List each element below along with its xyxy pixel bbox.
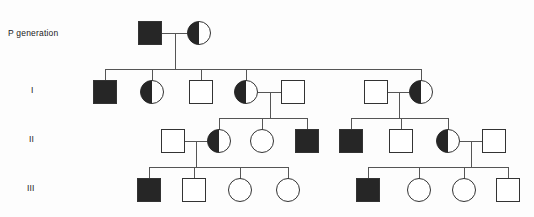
individual-P-1-square-filled[interactable] bbox=[139, 22, 162, 45]
circle-symbol-female bbox=[277, 179, 300, 202]
individual-III-6-circle-empty[interactable] bbox=[408, 179, 431, 202]
half-fill-left bbox=[437, 130, 448, 153]
individual-III-4-circle-empty[interactable] bbox=[277, 179, 300, 202]
square-symbol-male bbox=[162, 130, 185, 153]
individual-III-3-circle-empty[interactable] bbox=[229, 179, 252, 202]
square-symbol-male bbox=[483, 130, 506, 153]
individual-II-8-square-empty[interactable] bbox=[483, 130, 506, 153]
square-symbol-male bbox=[138, 179, 161, 202]
square-symbol-male bbox=[190, 81, 213, 104]
individual-III-8-square-empty[interactable] bbox=[497, 179, 520, 202]
individual-III-1-square-filled[interactable] bbox=[138, 179, 161, 202]
half-fill-left bbox=[235, 81, 247, 104]
individual-II-6-square-empty[interactable] bbox=[390, 130, 413, 153]
circle-symbol-female bbox=[251, 130, 274, 153]
connector-lines bbox=[105, 33, 508, 179]
individual-I-6-square-empty[interactable] bbox=[365, 81, 388, 104]
square-symbol-male bbox=[139, 22, 162, 45]
individual-II-4-square-filled[interactable] bbox=[296, 130, 319, 153]
individual-III-7-circle-empty[interactable] bbox=[453, 179, 476, 202]
square-symbol-male bbox=[365, 81, 388, 104]
individual-I-2-circle-half-filled[interactable] bbox=[141, 81, 164, 104]
circle-symbol-female bbox=[453, 179, 476, 202]
half-fill-left bbox=[208, 130, 220, 153]
individual-II-3-circle-empty[interactable] bbox=[251, 130, 274, 153]
square-symbol-male bbox=[340, 130, 363, 153]
half-fill-left bbox=[188, 22, 200, 45]
square-symbol-male bbox=[390, 130, 413, 153]
half-fill-left bbox=[141, 81, 153, 104]
square-symbol-male bbox=[296, 130, 319, 153]
individual-II-2-circle-half-filled[interactable] bbox=[208, 130, 231, 153]
individual-III-5-square-filled[interactable] bbox=[357, 179, 380, 202]
individual-I-4-circle-half-filled[interactable] bbox=[235, 81, 258, 104]
square-symbol-male bbox=[183, 179, 206, 202]
pedigree-graphics-layer bbox=[0, 0, 534, 217]
individual-III-2-square-empty[interactable] bbox=[183, 179, 206, 202]
half-fill-left bbox=[410, 81, 422, 104]
square-symbol-male bbox=[282, 81, 305, 104]
individual-II-5-square-filled[interactable] bbox=[340, 130, 363, 153]
individual-I-1-square-filled[interactable] bbox=[94, 81, 117, 104]
square-symbol-male bbox=[94, 81, 117, 104]
individual-P-2-circle-half-filled[interactable] bbox=[188, 22, 211, 45]
square-symbol-male bbox=[357, 179, 380, 202]
circle-symbol-female bbox=[229, 179, 252, 202]
individual-II-1-square-empty[interactable] bbox=[162, 130, 185, 153]
individual-I-3-square-empty[interactable] bbox=[190, 81, 213, 104]
individual-II-7-circle-half-filled[interactable] bbox=[437, 130, 460, 153]
square-symbol-male bbox=[497, 179, 520, 202]
individual-I-5-square-empty[interactable] bbox=[282, 81, 305, 104]
individual-I-7-circle-half-filled[interactable] bbox=[410, 81, 433, 104]
individual-symbols bbox=[94, 22, 520, 202]
circle-symbol-female bbox=[408, 179, 431, 202]
pedigree-chart: P generation I II III bbox=[0, 0, 534, 217]
